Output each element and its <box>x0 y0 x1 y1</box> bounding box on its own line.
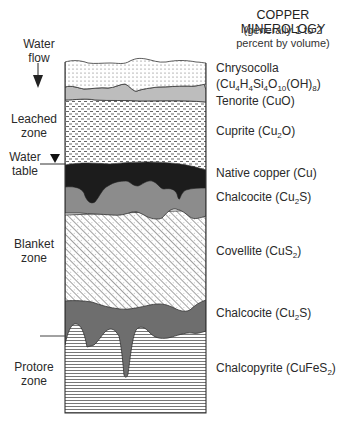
mineral-chrysocolla-formula: (Cu4H4Si4O10(OH)8) <box>216 77 321 91</box>
subtitle-line-2: percent by volume) <box>218 37 348 50</box>
mineral-native-copper: Native copper (Cu) <box>216 166 317 180</box>
mineral-chrysocolla: Chrysocolla <box>216 61 279 75</box>
layer-chrysocolla <box>65 58 206 91</box>
layer-cuprite <box>65 99 206 170</box>
label-blanket-zone: Blanket zone <box>6 237 62 265</box>
layer-covellite <box>65 210 206 311</box>
mineral-tenorite: Tenorite (CuO) <box>216 94 295 108</box>
mineral-chalcopyrite: Chalcopyrite (CuFeS2) <box>216 361 336 375</box>
diagram-subtitle: (generally 1 to 2 percent by volume) <box>218 24 348 49</box>
water-table-marker-icon <box>50 154 60 163</box>
water-flow-arrow-head <box>33 75 43 88</box>
label-water-flow: Water flow <box>14 37 64 65</box>
label-leached-zone: Leached zone <box>6 112 62 140</box>
mineral-cuprite: Cuprite (Cu2O) <box>216 124 295 138</box>
mineral-chalcocite-upper: Chalcocite (Cu2S) <box>216 190 311 204</box>
label-protore-zone: Protore zone <box>6 360 62 388</box>
subtitle-line-1: (generally 1 to 2 <box>218 24 348 37</box>
label-water-table: Water table <box>4 150 46 178</box>
mineral-covellite: Covellite (CuS2) <box>216 244 301 258</box>
mineral-chalcocite-lower: Chalcocite (Cu2S) <box>216 306 311 320</box>
